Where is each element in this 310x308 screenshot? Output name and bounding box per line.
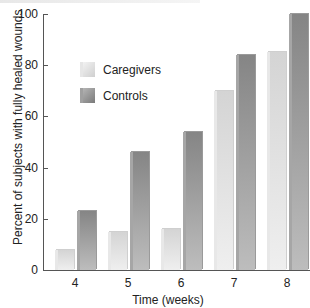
x-axis bbox=[43, 270, 310, 271]
y-tick-label: 60 bbox=[8, 110, 38, 122]
y-tick bbox=[43, 65, 48, 66]
y-tick bbox=[43, 270, 48, 271]
legend-label: Controls bbox=[103, 89, 148, 103]
y-tick-label: 40 bbox=[8, 162, 38, 174]
x-tick-label: 6 bbox=[171, 277, 191, 289]
x-tick-label: 4 bbox=[65, 277, 85, 289]
y-tick-label: 20 bbox=[8, 213, 38, 225]
y-tick-label: 100 bbox=[8, 8, 38, 20]
legend-swatch-caregivers bbox=[80, 62, 95, 77]
y-tick-label: 0 bbox=[8, 264, 38, 276]
x-tick-label: 5 bbox=[118, 277, 138, 289]
bar-controls-week-4 bbox=[77, 211, 96, 270]
bar-caregivers-week-6 bbox=[161, 229, 180, 270]
bar-controls-week-6 bbox=[183, 132, 202, 270]
bar-controls-week-7 bbox=[236, 55, 255, 270]
bar-caregivers-week-4 bbox=[55, 250, 74, 270]
x-tick-label: 8 bbox=[277, 277, 297, 289]
x-axis-label: Time (weeks) bbox=[118, 294, 218, 306]
legend-label: Caregivers bbox=[103, 63, 161, 77]
legend-swatch-controls bbox=[80, 88, 95, 103]
y-tick bbox=[43, 168, 48, 169]
y-tick bbox=[43, 14, 48, 15]
bar-caregivers-week-5 bbox=[108, 232, 127, 270]
y-tick bbox=[43, 116, 48, 117]
bar-caregivers-week-8 bbox=[267, 52, 286, 270]
y-tick-label: 80 bbox=[8, 59, 38, 71]
bar-controls-week-8 bbox=[289, 14, 308, 270]
bar-caregivers-week-7 bbox=[214, 91, 233, 270]
y-axis bbox=[43, 14, 44, 271]
y-tick bbox=[43, 219, 48, 220]
x-tick-label: 7 bbox=[224, 277, 244, 289]
bar-controls-week-5 bbox=[130, 152, 149, 270]
cropped-caption bbox=[0, 0, 200, 3]
